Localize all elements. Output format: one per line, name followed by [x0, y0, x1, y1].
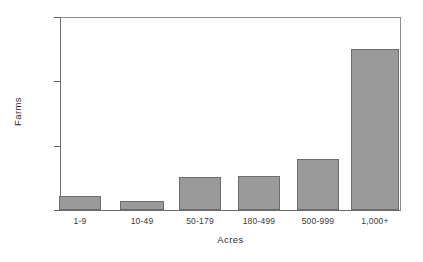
x-tick-label-180-499: 180-499 [229, 216, 289, 226]
x-tick-label-50-179: 50-179 [170, 216, 230, 226]
y-tick-mark-200 [54, 81, 60, 82]
y-axis-title: Farms [12, 82, 23, 142]
x-tick-label-500-999: 500-999 [288, 216, 348, 226]
bar-500-999 [297, 159, 339, 210]
y-tick-mark-100 [54, 146, 60, 147]
bar-1000-plus [351, 49, 399, 210]
plot-area [60, 17, 401, 211]
bar-10-49 [120, 201, 164, 210]
x-tick-label-1000-plus: 1,000+ [345, 216, 405, 226]
bar-50-179 [179, 177, 221, 210]
bar-1-9 [59, 196, 101, 210]
x-axis-title: Acres [60, 234, 401, 245]
x-tick-label-1-9: 1-9 [50, 216, 110, 226]
x-tick-label-10-49: 10-49 [112, 216, 172, 226]
y-tick-mark-300 [54, 17, 60, 18]
chart-screenshot: 300 200 100 0 Farms 1-9 10-49 50-179 180… [0, 0, 423, 262]
y-tick-mark-0 [54, 210, 60, 211]
bar-180-499 [238, 176, 280, 210]
